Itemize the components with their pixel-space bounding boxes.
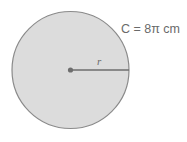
circumference-label: C = 8π cm [121,22,180,36]
radius-label: r [97,55,101,67]
center-point [68,67,73,72]
